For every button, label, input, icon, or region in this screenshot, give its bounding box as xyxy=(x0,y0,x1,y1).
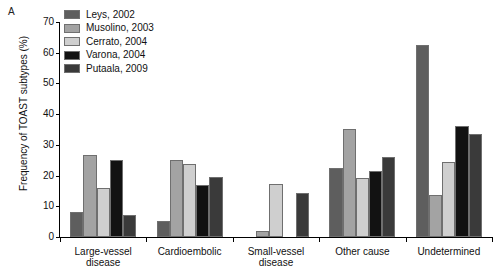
bar xyxy=(170,160,183,237)
legend-label: Musolino, 2003 xyxy=(86,23,154,33)
x-tick-mark xyxy=(146,237,147,242)
bar xyxy=(356,178,369,237)
legend-item: Varona, 2004 xyxy=(64,49,154,63)
y-tick-mark xyxy=(56,22,60,23)
y-tick-label: 50 xyxy=(14,78,60,88)
x-tick-mark xyxy=(492,237,493,242)
legend-label: Varona, 2004 xyxy=(86,50,145,60)
legend-swatch-icon xyxy=(64,10,80,19)
x-tick-mark xyxy=(406,237,407,242)
bar xyxy=(123,215,136,237)
x-category-label: Cardioembolic xyxy=(146,246,232,257)
legend-item: Leys, 2002 xyxy=(64,8,154,22)
y-tick-label: 0 xyxy=(14,232,60,242)
bar xyxy=(97,188,110,237)
legend-swatch-icon xyxy=(64,51,80,60)
legend: Leys, 2002Musolino, 2003Cerrato, 2004Var… xyxy=(64,8,154,76)
x-category-label: Undetermined xyxy=(406,246,492,257)
x-tick-mark xyxy=(60,237,61,242)
x-category-label: Small-vessel disease xyxy=(233,246,319,268)
legend-item: Putaala, 2009 xyxy=(64,62,154,76)
x-category-label: Large-vessel disease xyxy=(60,246,146,268)
x-tick-mark xyxy=(319,237,320,242)
legend-label: Leys, 2002 xyxy=(86,10,135,20)
bar xyxy=(455,126,468,237)
bar xyxy=(442,162,455,237)
bar xyxy=(369,171,382,237)
bar xyxy=(469,134,482,237)
bar xyxy=(416,45,429,237)
bar xyxy=(196,185,209,237)
bar xyxy=(269,184,282,237)
x-category-label: Other cause xyxy=(319,246,405,257)
legend-swatch-icon xyxy=(64,37,80,46)
bar xyxy=(183,164,196,237)
bar xyxy=(70,212,83,237)
bar xyxy=(256,231,269,237)
legend-label: Cerrato, 2004 xyxy=(86,37,147,47)
bar xyxy=(296,193,309,237)
y-tick-mark xyxy=(56,176,60,177)
legend-label: Putaala, 2009 xyxy=(86,64,148,74)
y-tick-mark xyxy=(56,114,60,115)
y-tick-mark xyxy=(56,145,60,146)
bar xyxy=(83,155,96,237)
y-tick-label: 60 xyxy=(14,48,60,58)
legend-swatch-icon xyxy=(64,64,80,73)
y-tick-mark xyxy=(56,83,60,84)
legend-item: Musolino, 2003 xyxy=(64,22,154,36)
bar xyxy=(110,160,123,237)
bar xyxy=(209,177,222,237)
x-tick-mark xyxy=(233,237,234,242)
bar xyxy=(157,221,170,237)
y-tick-label: 10 xyxy=(14,201,60,211)
y-tick-mark xyxy=(56,53,60,54)
y-tick-label: 20 xyxy=(14,171,60,181)
bar xyxy=(429,195,442,237)
y-tick-mark xyxy=(56,206,60,207)
panel-label: A xyxy=(8,6,15,17)
bar xyxy=(343,129,356,237)
bar xyxy=(382,157,395,237)
x-axis-line xyxy=(59,237,493,238)
y-tick-label: 30 xyxy=(14,140,60,150)
legend-swatch-icon xyxy=(64,24,80,33)
bar xyxy=(329,168,342,237)
y-tick-label: 40 xyxy=(14,109,60,119)
toast-subtypes-bar-chart: A Frequency of TOAST subtypes (%) 010203… xyxy=(0,0,502,268)
y-tick-label: 70 xyxy=(14,17,60,27)
legend-item: Cerrato, 2004 xyxy=(64,35,154,49)
